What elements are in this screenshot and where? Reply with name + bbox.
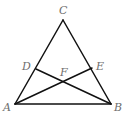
point-label-c: C [59,4,68,17]
triangle-diagram: C D E F A B [0,0,126,114]
segment-AE [15,68,92,104]
point-label-a: A [2,101,11,114]
point-label-f: F [59,66,68,79]
point-label-b: B [113,101,122,114]
point-label-e: E [95,60,104,73]
point-label-d: D [21,60,31,73]
diagram-canvas: C D E F A B [0,0,126,114]
segment-BD [36,69,111,104]
